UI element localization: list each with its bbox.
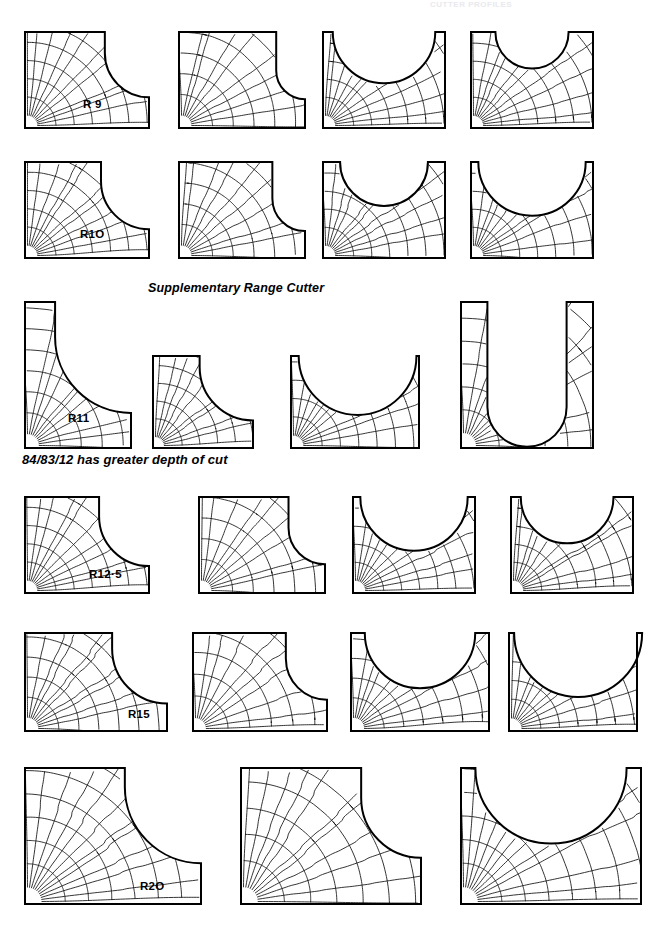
radius-label: R2O: [140, 880, 165, 892]
figure-row-r9-scallop-center: [320, 29, 448, 131]
figure-row-r10-scallop-center: [320, 159, 448, 261]
figure-row-r10-scallop-wide: [468, 159, 596, 261]
profile-fill: [179, 32, 305, 128]
figure-row-r9-step-notch-small: [176, 29, 308, 131]
catalog-page: CUTTER PROFILES Supplementary Range Cutt…: [0, 0, 660, 926]
radius-label: R12·5: [89, 568, 122, 580]
figure-row-r20-step-notch-large: [22, 765, 204, 907]
radius-label: R1O: [80, 228, 105, 240]
profile-fill: [179, 162, 305, 258]
figure-row-r9-scallop-narrow: [468, 29, 596, 131]
profile-fill: [241, 768, 421, 904]
profile-fill: [511, 497, 633, 593]
figure-row-supplementary-u-slot-deep: [458, 299, 596, 451]
figure-row-r20-scallop-wide: [458, 765, 644, 907]
profile-fill: [291, 356, 419, 448]
figure-row-r20-step-notch-small: [238, 765, 424, 907]
mesh-ring-line: [99, 352, 113, 365]
figure-row-r12-5-scallop-shallow: [508, 494, 636, 596]
figure-row-supplementary-small-step-notch: [150, 353, 256, 451]
section-title-supplementary-range-cutter: Supplementary Range Cutter: [148, 281, 324, 295]
figure-row-r10-step-notch-small: [176, 159, 308, 261]
profile-fill: [461, 302, 593, 448]
figure-row-supplementary-scallop-wide: [288, 353, 422, 451]
figure-row-r15-step-notch-small: [190, 630, 330, 734]
radius-label: R15: [128, 708, 150, 720]
figure-row-r10-step-notch-large: [22, 159, 152, 261]
profile-fill: [153, 356, 253, 448]
mesh-ring-line: [187, 822, 200, 858]
profile-fill: [199, 497, 325, 593]
figure-row-r15-scallop-center: [348, 630, 492, 734]
profile-fill: [461, 768, 641, 904]
page-header-faded: CUTTER PROFILES: [430, 0, 640, 7]
radius-label: R11: [68, 412, 89, 424]
section-title-depth-of-cut: 84/83/12 has greater depth of cut: [22, 452, 228, 467]
radius-label: R 9: [83, 98, 102, 110]
figure-row-r12-5-step-notch-large: [22, 494, 152, 596]
figure-row-r15-scallop-wide: [506, 630, 640, 734]
profile-fill: [193, 633, 327, 731]
figure-row-r9-step-notch-large: [22, 29, 152, 131]
profile-fill: [25, 768, 201, 904]
figure-row-r12-5-step-notch-small: [196, 494, 328, 596]
figure-row-r12-5-scallop-deep: [350, 494, 478, 596]
figure-row-supplementary-tall-step-notch: [22, 299, 134, 451]
